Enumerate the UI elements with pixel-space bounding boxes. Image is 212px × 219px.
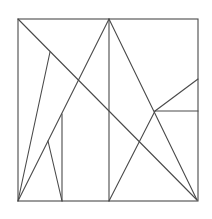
apex-to-bottom-left-line	[18, 19, 109, 201]
diagonal-point-to-bottom-left-line	[18, 52, 50, 201]
segments-group	[18, 19, 198, 201]
apex-to-bottom-right-line	[109, 19, 197, 200]
main-diagonal-line	[18, 19, 197, 200]
small-triangle-edge-line	[48, 141, 62, 201]
geometric-figure	[0, 0, 212, 219]
bottom-center-to-right-point-line	[109, 111, 155, 201]
right-slant-line	[155, 79, 198, 111]
